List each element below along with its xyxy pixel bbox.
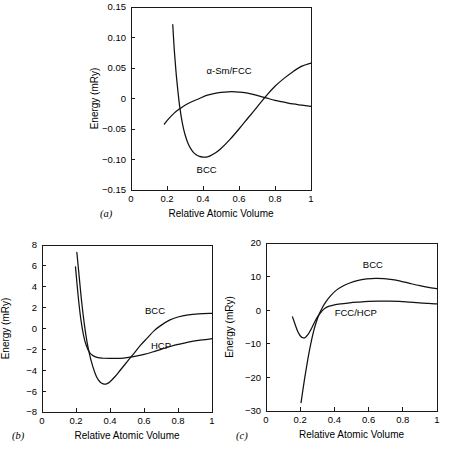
curve-label-alpha-sm-fcc: α-Sm/FCC	[207, 65, 252, 76]
x-axis-title: Relative Atomic Volume	[299, 429, 404, 440]
plot-frame	[131, 7, 311, 190]
y-tick-label: −0.10	[102, 154, 126, 165]
x-tick-label: 0.8	[396, 414, 409, 425]
y-tick-label: 0.10	[108, 32, 127, 43]
x-tick-label: 0	[128, 193, 133, 204]
x-tick-label: 0.4	[328, 414, 341, 425]
multi-panel-figure: 00.20.40.60.81−0.15−0.10−0.0500.050.100.…	[0, 0, 451, 453]
curve-label-bcc: BCC	[363, 259, 383, 270]
x-tick-label: 0.2	[69, 415, 82, 426]
y-tick-label: −8	[26, 406, 37, 417]
x-tick-label: 0.2	[294, 414, 307, 425]
y-tick-label: 0	[121, 93, 126, 104]
curve-bcc	[301, 278, 437, 402]
curve-label-fcc-hcp: FCC/HCP	[335, 307, 377, 318]
x-tick-label: 0.6	[362, 414, 375, 425]
panel-c: 00.20.40.60.81−30−20−1001020Relative Ato…	[224, 237, 440, 442]
curve-label-bcc: BCC	[145, 305, 165, 316]
x-axis-title: Relative Atomic Volume	[74, 430, 179, 441]
panel-letter-label: (b)	[12, 430, 25, 442]
y-tick-label: 20	[250, 237, 261, 248]
y-tick-label: 6	[32, 260, 37, 271]
y-tick-label: −0.05	[102, 123, 126, 134]
x-tick-label: 1	[434, 414, 439, 425]
x-tick-label: 0.8	[268, 193, 281, 204]
y-axis-title: Energy (mRy)	[0, 298, 11, 360]
x-tick-label: 0.8	[171, 415, 184, 426]
y-tick-label: −6	[26, 386, 37, 397]
curve-hcp	[75, 267, 212, 359]
x-axis-title: Relative Atomic Volume	[168, 208, 273, 219]
y-tick-label: −20	[245, 372, 261, 383]
y-tick-label: 8	[32, 239, 37, 250]
panel-b: 00.20.40.60.81−8−6−4−202468Relative Atom…	[0, 239, 215, 442]
y-tick-label: −4	[26, 365, 37, 376]
curve-label-bcc: BCC	[197, 164, 217, 175]
panel-a: 00.20.40.60.81−0.15−0.10−0.0500.050.100.…	[89, 1, 314, 220]
y-tick-label: −30	[245, 405, 261, 416]
curve-bcc	[173, 25, 311, 157]
x-tick-label: 0.4	[196, 193, 209, 204]
y-tick-label: 0.15	[108, 1, 127, 12]
panel-letter-label: (c)	[236, 430, 248, 442]
x-tick-label: 0.6	[232, 193, 245, 204]
curve-bcc	[77, 252, 212, 384]
x-tick-label: 0.2	[160, 193, 173, 204]
y-tick-label: 0	[32, 323, 37, 334]
y-tick-label: 10	[250, 271, 261, 282]
y-tick-label: 4	[32, 281, 37, 292]
y-tick-label: −10	[245, 338, 261, 349]
y-tick-label: −0.15	[102, 184, 126, 195]
y-tick-label: 2	[32, 302, 37, 313]
x-tick-label: 1	[308, 193, 313, 204]
x-tick-label: 0.6	[137, 415, 150, 426]
y-tick-label: 0	[256, 305, 261, 316]
x-tick-label: 0	[263, 414, 268, 425]
y-tick-label: −2	[26, 344, 37, 355]
y-axis-title: Energy (mRy)	[224, 296, 235, 358]
x-tick-label: 1	[209, 415, 214, 426]
x-tick-label: 0	[39, 415, 44, 426]
panel-letter-label: (a)	[100, 208, 113, 220]
plot-frame	[42, 245, 212, 412]
curve-label-hcp: HCP	[151, 340, 171, 351]
y-axis-title: Energy (mRy)	[89, 68, 100, 130]
curve-alpha-sm-fcc	[164, 92, 311, 124]
plot-frame	[266, 243, 437, 411]
x-tick-label: 0.4	[103, 415, 116, 426]
y-tick-label: 0.05	[108, 62, 127, 73]
